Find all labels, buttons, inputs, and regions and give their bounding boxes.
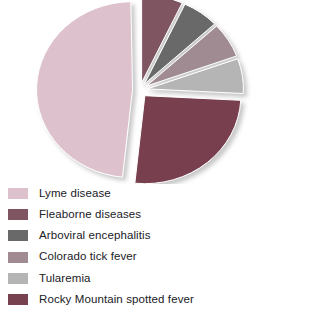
legend-label-arboviral-encephalitis: Arboviral encephalitis xyxy=(39,230,151,242)
legend-label-tularemia: Tularemia xyxy=(39,273,91,285)
chart-plot-area xyxy=(0,0,313,182)
pie-chart-figure: Lyme disease Fleaborne diseases Arbovira… xyxy=(0,0,313,316)
legend-swatch-tularemia xyxy=(8,273,28,284)
legend-label-fleaborne-diseases: Fleaborne diseases xyxy=(39,209,141,221)
legend-item-colorado-tick-fever[interactable]: Colorado tick fever xyxy=(0,247,313,268)
pie-slice[interactable] xyxy=(37,2,133,178)
legend-swatch-rocky-mountain-spotted-fever xyxy=(8,294,28,305)
legend-swatch-arboviral-encephalitis xyxy=(8,230,28,241)
legend-swatch-lyme-disease xyxy=(8,188,28,199)
legend-label-rocky-mountain-spotted-fever: Rocky Mountain spotted fever xyxy=(39,294,194,306)
legend-item-tularemia[interactable]: Tularemia xyxy=(0,268,313,289)
legend-swatch-fleaborne-diseases xyxy=(8,209,28,220)
chart-legend: Lyme disease Fleaborne diseases Arbovira… xyxy=(0,183,313,316)
pie-slice[interactable] xyxy=(135,96,241,184)
legend-label-lyme-disease: Lyme disease xyxy=(39,188,111,200)
pie-chart-svg xyxy=(18,0,274,184)
legend-item-rocky-mountain-spotted-fever[interactable]: Rocky Mountain spotted fever xyxy=(0,289,313,310)
legend-label-colorado-tick-fever: Colorado tick fever xyxy=(39,251,137,263)
legend-item-lyme-disease[interactable]: Lyme disease xyxy=(0,183,313,204)
legend-swatch-colorado-tick-fever xyxy=(8,252,28,263)
pie-slice-group xyxy=(37,0,244,184)
legend-item-arboviral-encephalitis[interactable]: Arboviral encephalitis xyxy=(0,225,313,246)
legend-item-fleaborne-diseases[interactable]: Fleaborne diseases xyxy=(0,204,313,225)
